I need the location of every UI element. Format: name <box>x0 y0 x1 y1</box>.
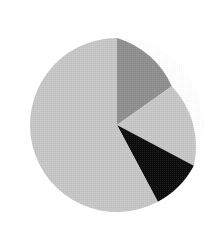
pie-texture-overlay <box>30 38 204 212</box>
pie-chart-figure <box>0 0 224 238</box>
pie-chart-canvas <box>0 0 224 238</box>
